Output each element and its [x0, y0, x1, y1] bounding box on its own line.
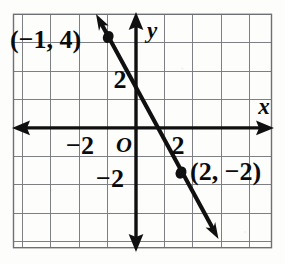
origin-label: O: [116, 132, 132, 157]
y-tick-label-positive-two: 2: [114, 65, 127, 94]
graph-canvas: (−1, 4) (2, −2) O x y −2 2 2 −2: [0, 0, 285, 264]
x-tick-label-positive-two: 2: [172, 131, 185, 160]
y-tick-label-negative-two: −2: [96, 164, 124, 193]
point-label-a: (−1, 4): [10, 25, 81, 54]
x-tick-label-negative-two: −2: [66, 131, 94, 160]
coordinate-plane-figure: (−1, 4) (2, −2) O x y −2 2 2 −2: [0, 0, 285, 264]
point-label-b: (2, −2): [190, 157, 261, 186]
x-axis-label: x: [257, 94, 270, 119]
y-axis-label: y: [144, 18, 158, 43]
